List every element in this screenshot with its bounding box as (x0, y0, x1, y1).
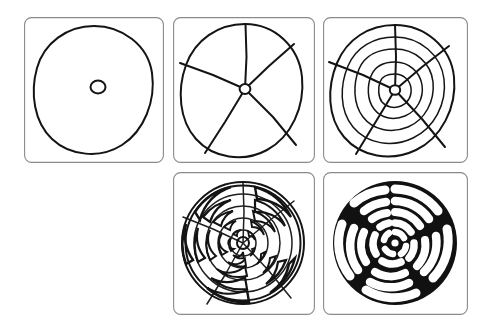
panel-2-canvas (173, 17, 315, 163)
panel-3-canvas (323, 17, 468, 163)
labyrinth-construction-figure (0, 0, 491, 335)
path-r4-e (380, 223, 389, 227)
panel-step-concentric-rings (323, 17, 468, 163)
labyrinth-center-goal (391, 239, 398, 246)
path-r4-d (373, 235, 376, 254)
panel-4-canvas (173, 172, 315, 315)
panel-1-canvas (24, 17, 164, 163)
panel-step-circle-and-center (24, 17, 164, 163)
panel-step-labyrinth-outline (173, 172, 315, 315)
path-r3-c (375, 272, 405, 276)
panel-step-labyrinth-filled (323, 172, 468, 315)
path-r4-c (382, 261, 401, 264)
spoke-up (395, 25, 396, 90)
panel-5-canvas (323, 172, 468, 315)
panel-step-five-spokes (173, 17, 315, 163)
panel-frame (25, 18, 164, 163)
